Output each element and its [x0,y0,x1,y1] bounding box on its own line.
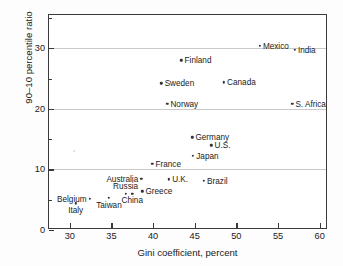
data-point-france [151,163,153,165]
x-tick-40 [153,223,154,228]
data-label-u-s: U.S. [215,141,231,150]
y-axis-title: 90–10 percentile ratio [23,0,34,138]
x-tick-label-40: 40 [148,231,158,241]
data-point-russia [124,192,126,194]
y-tick-0 [49,230,54,231]
data-label-mexico: Mexico [263,41,289,50]
data-point-u-k [168,178,170,180]
data-label-norway: Norway [170,100,198,109]
data-point-germany [191,136,193,138]
plot-area: 0102030 30354045505560 MexicoIndiaFinlan… [48,14,327,229]
data-label-finland: Finland [185,56,212,65]
data-point-australia [140,177,142,179]
y-tick-minor-5 [49,200,52,201]
y-tick-label-0: 0 [40,225,45,235]
data-point-mexico [259,45,261,47]
x-axis-title: Gini coefficient, percent [48,247,327,258]
data-label-china: China [122,196,143,205]
data-point-greece [141,190,143,192]
gridline-y-10 [49,169,326,170]
y-tick-10 [49,169,54,170]
data-point-canada [223,81,225,83]
data-label-greece: Greece [145,187,172,196]
x-tick-label-55: 55 [273,231,283,241]
x-tick-45 [195,223,196,228]
x-tick-50 [236,223,237,228]
y-tick-20 [49,109,54,110]
scatter-plot-figure: 0102030 30354045505560 MexicoIndiaFinlan… [0,0,343,266]
scan-artifact-speck [73,150,75,152]
data-point-u-s [210,144,212,146]
y-tick-minor-35 [49,18,52,19]
data-label-france: France [155,159,180,168]
x-tick-35 [111,223,112,228]
x-tick-60 [320,223,321,228]
x-tick-label-60: 60 [315,231,325,241]
y-tick-minor-15 [49,139,52,140]
data-label-russia: Russia [113,182,138,191]
x-tick-label-30: 30 [65,231,75,241]
data-label-u-k: U.K. [172,175,188,184]
data-point-china [131,192,133,194]
data-label-india: India [298,45,316,54]
data-label-sweden: Sweden [165,79,195,88]
x-tick-label-45: 45 [190,231,200,241]
data-label-taiwan: Taiwan [96,201,122,210]
y-tick-label-30: 30 [35,43,45,53]
y-tick-label-10: 10 [35,164,45,174]
data-label-s-africa: S. Africa [295,100,326,109]
data-label-canada: Canada [227,78,256,87]
x-tick-55 [278,223,279,228]
data-point-belgium [89,197,91,199]
gridline-y-20 [49,109,326,110]
y-tick-label-20: 20 [35,104,45,114]
data-point-brazil [203,180,205,182]
data-point-taiwan [108,197,110,199]
x-tick-label-35: 35 [106,231,116,241]
y-tick-minor-25 [49,79,52,80]
data-point-norway [166,103,168,105]
y-tick-30 [49,48,54,49]
data-label-brazil: Brazil [207,176,227,185]
data-point-s-africa [291,103,293,105]
data-label-italy: Italy [68,206,83,215]
data-point-japan [192,154,194,156]
x-tick-30 [70,223,71,228]
data-point-sweden [160,82,162,84]
data-label-belgium: Belgium [57,194,87,203]
data-label-japan: Japan [196,151,218,160]
data-point-finland [180,59,182,61]
x-tick-label-50: 50 [231,231,241,241]
